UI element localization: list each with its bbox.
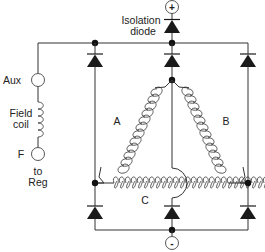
positive-diode-right-icon — [240, 54, 256, 67]
top-rail — [38, 43, 248, 73]
negative-symbol: - — [170, 238, 173, 249]
isolation-label-line2: diode — [130, 25, 156, 37]
winding-a-coil-icon — [95, 80, 172, 183]
winding-a-label: A — [113, 115, 120, 127]
f-terminal — [32, 148, 45, 161]
winding-b-label: B — [222, 115, 229, 127]
negative-terminal: - — [166, 237, 179, 250]
to-reg-label-line2: Reg — [28, 176, 47, 188]
node-bottom-left — [92, 180, 98, 186]
field-coil-icon — [38, 102, 43, 137]
node-bottom-right — [245, 180, 251, 186]
f-label: F — [18, 148, 24, 160]
positive-diode-center-icon — [164, 43, 180, 67]
aux-label: Aux — [3, 74, 22, 86]
aux-terminal — [32, 74, 45, 87]
negative-diode-left-icon — [87, 206, 103, 230]
winding-c-coil-icon — [95, 177, 265, 188]
negative-diode-right-icon — [240, 206, 256, 230]
isolation-diode-icon — [164, 20, 180, 34]
winding-c-label: C — [141, 194, 149, 206]
alternator-circuit-diagram: + Isolation diode A — [0, 0, 265, 252]
winding-b-coil-icon — [172, 80, 248, 183]
positive-diode-left-icon — [87, 43, 103, 67]
negative-diode-center-icon — [164, 206, 180, 230]
field-coil-label-line2: coil — [13, 118, 29, 130]
positive-symbol: + — [169, 2, 175, 13]
positive-terminal: + — [166, 1, 179, 14]
